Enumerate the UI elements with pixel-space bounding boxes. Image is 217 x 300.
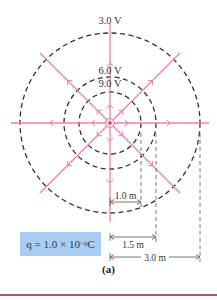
dimension-label: 1.5 m xyxy=(122,240,144,250)
charge-value-prefix: q = 1.0 × 10 xyxy=(26,238,80,250)
potential-label: 3.0 V xyxy=(98,15,122,26)
dimension-label: 1.0 m xyxy=(115,191,137,201)
charge-value-suffix: C xyxy=(87,238,94,250)
field-line xyxy=(40,123,110,193)
charge-value-label: q = 1.0 × 10−9 C xyxy=(20,232,101,256)
figure-caption: (a) xyxy=(0,263,217,275)
charge-value-exponent: −9 xyxy=(80,240,87,248)
point-charge xyxy=(106,119,115,128)
distance-dimensions: 1.0 m1.5 m3.0 m xyxy=(110,133,200,263)
potential-label: 9.0 V xyxy=(98,78,122,89)
potential-label: 6.0 V xyxy=(98,65,122,76)
dimension-label: 3.0 m xyxy=(144,253,166,263)
divider-rule xyxy=(0,294,217,296)
field-line xyxy=(110,123,180,193)
